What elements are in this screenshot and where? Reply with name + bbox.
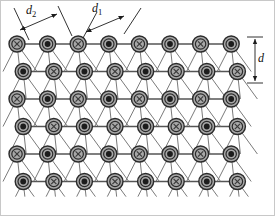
atom-cross	[70, 91, 86, 107]
atom-cross	[168, 119, 184, 135]
atom-cross	[46, 119, 62, 135]
atom-dot-glyph	[167, 151, 173, 157]
atom-dot-glyph	[167, 41, 173, 47]
atom-cross	[229, 64, 245, 80]
atom-dot-glyph	[106, 151, 112, 157]
atom-dot-glyph	[143, 124, 149, 130]
atom-dot	[76, 64, 92, 80]
atom-dot	[101, 91, 117, 107]
atom-dot	[138, 119, 154, 135]
atom-cross	[9, 146, 25, 162]
atom-cross	[131, 146, 147, 162]
atom-dot	[40, 146, 56, 162]
atom-dot	[101, 146, 117, 162]
atom-cross	[46, 64, 62, 80]
atom-dot-glyph	[20, 179, 26, 185]
atom-dot-glyph	[143, 69, 149, 75]
atom-cross	[46, 174, 62, 190]
atom-dot	[199, 64, 215, 80]
lattice-canvas: d2d1d	[0, 0, 275, 216]
atom-cross	[70, 146, 86, 162]
atom-dot-glyph	[167, 96, 173, 102]
atom-dot-glyph	[20, 69, 26, 75]
atom-cross	[168, 64, 184, 80]
label-base: d	[258, 51, 265, 65]
atom-cross	[131, 36, 147, 52]
atom-cross	[229, 119, 245, 135]
atom-dot-glyph	[82, 124, 88, 130]
atom-dot-glyph	[20, 124, 26, 130]
atom-dot	[223, 146, 239, 162]
atom-dot	[199, 119, 215, 135]
atom-dot	[15, 119, 31, 135]
atom-cross	[70, 36, 86, 52]
atom-cross	[107, 119, 123, 135]
atom-cross	[168, 174, 184, 190]
atom-dot-glyph	[82, 69, 88, 75]
atom-dot-glyph	[228, 96, 234, 102]
label-subscript: 1	[98, 7, 102, 17]
atom-dot-glyph	[45, 151, 51, 157]
atom-dot	[15, 64, 31, 80]
d1-guide-line-left	[83, 12, 97, 38]
atom-dot	[40, 91, 56, 107]
atom-dot	[76, 174, 92, 190]
atom-dot	[162, 36, 178, 52]
atom-dot-glyph	[82, 179, 88, 185]
atom-dot	[162, 146, 178, 162]
atom-dot-glyph	[106, 41, 112, 47]
atom-cross	[107, 174, 123, 190]
label-d1: d1	[92, 1, 102, 17]
atom-dot-glyph	[45, 96, 51, 102]
atom-dot	[101, 36, 117, 52]
atom-dot	[15, 174, 31, 190]
atom-cross	[193, 91, 209, 107]
bond-layer	[3, 44, 257, 197]
atom-dot	[138, 174, 154, 190]
atom-cross	[229, 174, 245, 190]
atom-dot-glyph	[106, 96, 112, 102]
atom-cross	[193, 146, 209, 162]
atom-cross	[9, 36, 25, 52]
lattice-figure: d2d1d	[0, 0, 275, 216]
label-d: d	[258, 51, 265, 65]
atom-dot-glyph	[204, 69, 210, 75]
atom-dot-glyph	[228, 151, 234, 157]
atom-dot	[162, 91, 178, 107]
atom-dot	[223, 91, 239, 107]
atom-dot-glyph	[143, 179, 149, 185]
atom-dot-glyph	[228, 41, 234, 47]
atom-dot	[40, 36, 56, 52]
label-d2: d2	[26, 3, 36, 19]
atom-dot	[138, 64, 154, 80]
atom-cross	[193, 36, 209, 52]
d1-guide-line-right	[124, 8, 141, 34]
label-subscript: 2	[32, 9, 36, 19]
d1-dimension-arrow	[86, 16, 124, 32]
atom-cross	[9, 91, 25, 107]
atom-dot-glyph	[45, 41, 51, 47]
d2-guide-line-right	[58, 6, 72, 36]
atom-dot	[223, 36, 239, 52]
atom-dot	[199, 174, 215, 190]
atom-dot-glyph	[204, 124, 210, 130]
atom-cross	[107, 64, 123, 80]
atom-dot-glyph	[204, 179, 210, 185]
atom-cross	[131, 91, 147, 107]
atom-dot	[76, 119, 92, 135]
